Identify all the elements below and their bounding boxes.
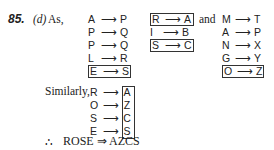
letter-to: Z [256, 65, 262, 77]
letter-to: S [122, 65, 129, 77]
letter-from: O [224, 65, 234, 78]
mapping-row: A⟶P [222, 26, 264, 39]
letter-to: B [182, 26, 189, 38]
mapping-row: N⟶X [222, 39, 264, 52]
arrow-icon: ⟶ [162, 39, 184, 52]
letter-to: T [254, 13, 260, 25]
letter-from: R [90, 86, 100, 99]
similarly-label: Similarly, [45, 85, 90, 97]
and-label: and [199, 13, 216, 25]
arrow-icon: ⟶ [98, 52, 120, 65]
arrow-icon: ⟶ [100, 65, 122, 78]
mapping-row: A⟶P [88, 13, 131, 26]
arrow-icon: ⟶ [100, 86, 122, 99]
mapping-row: I⟶B [150, 26, 194, 39]
intro-text: As, [48, 13, 64, 25]
arrow-icon: ⟶ [162, 13, 184, 26]
arrow-icon: ⟶ [232, 13, 254, 26]
mapping-group-1: A⟶PP⟶QP⟶QL⟶RE⟶S [88, 13, 131, 78]
mapping-row: L⟶R [88, 52, 131, 65]
letter-to: Y [254, 52, 261, 64]
letter-to: A [184, 13, 191, 25]
letter-from: L [88, 52, 98, 65]
arrow-icon: ⟶ [98, 39, 120, 52]
mapping-row: R⟶A [150, 13, 194, 26]
mapping-row: M⟶T [222, 13, 264, 26]
letter-from: O [90, 99, 100, 112]
arrow-icon: ⟶ [100, 99, 122, 112]
mapping-row: P⟶Q [88, 39, 131, 52]
arrow-icon: ⟶ [232, 39, 254, 52]
mapping-row: E⟶S [88, 65, 131, 78]
mapping-row: O⟶Z [222, 65, 264, 78]
arrow-icon: ⟶ [160, 26, 182, 39]
question-number: 85. [8, 12, 25, 26]
letter-to: Q [120, 26, 128, 38]
mapping-row: S⟶C [150, 39, 194, 52]
conclusion-text: ROSE ⇒ AZCS [63, 134, 140, 149]
letter-from: R [152, 13, 162, 26]
letter-from: I [150, 26, 160, 39]
therefore-symbol: ∴ [45, 135, 53, 149]
answer-option: (d) [33, 13, 46, 25]
letter-to: C [184, 39, 192, 51]
result-box [122, 86, 135, 139]
letter-from: G [222, 52, 232, 65]
letter-from: A [222, 26, 232, 39]
arrow-icon: ⟶ [232, 26, 254, 39]
mapping-group-2: R⟶AI⟶BS⟶C [150, 13, 194, 52]
arrow-icon: ⟶ [100, 112, 122, 125]
mapping-group-3: M⟶TA⟶PN⟶XG⟶YO⟶Z [222, 13, 264, 78]
letter-from: M [222, 13, 232, 26]
letter-from: P [88, 26, 98, 39]
letter-from: S [152, 39, 162, 52]
mapping-row: G⟶Y [222, 52, 264, 65]
result-mapping: R⟶AO⟶ZS⟶CE⟶S [90, 86, 132, 138]
letter-to: Q [120, 39, 128, 51]
letter-from: A [88, 13, 98, 26]
arrow-icon: ⟶ [232, 52, 254, 65]
letter-to: X [254, 39, 261, 51]
letter-to: P [120, 13, 127, 25]
letter-from: P [88, 39, 98, 52]
mapping-row: P⟶Q [88, 26, 131, 39]
arrow-icon: ⟶ [234, 65, 256, 78]
arrow-icon: ⟶ [98, 26, 120, 39]
letter-from: N [222, 39, 232, 52]
letter-to: P [254, 26, 261, 38]
letter-from: S [90, 112, 100, 125]
letter-from: E [90, 65, 100, 78]
letter-to: R [120, 52, 128, 64]
arrow-icon: ⟶ [98, 13, 120, 26]
